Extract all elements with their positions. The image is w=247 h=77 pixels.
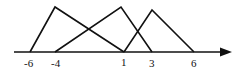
- tick-label-neg4: -4: [51, 57, 61, 69]
- tick-label-3: 3: [149, 57, 155, 69]
- tick-label-1: 1: [121, 56, 127, 68]
- membership-diagram: -6 -4 1 3 6: [0, 0, 247, 77]
- triangle-3: [124, 10, 194, 52]
- axis-arrow-icon: [220, 48, 232, 57]
- triangle-2: [55, 7, 152, 52]
- tick-label-6: 6: [191, 57, 197, 69]
- tick-label-neg6: -6: [24, 57, 34, 69]
